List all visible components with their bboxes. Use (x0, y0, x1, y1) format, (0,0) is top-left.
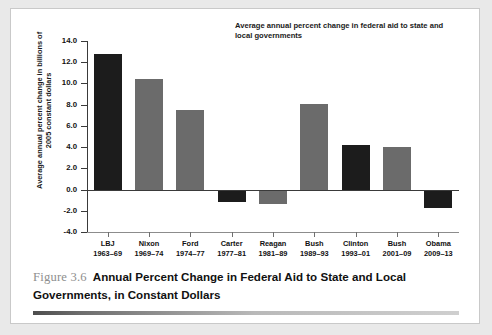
x-tick-mark (190, 232, 191, 237)
x-label-years: 1969–74 (135, 249, 164, 258)
bar-bush-5 (300, 104, 328, 190)
x-label-name: Bush (388, 239, 406, 248)
x-label-name: Clinton (343, 239, 368, 248)
zero-baseline (87, 190, 459, 191)
x-label-years: 2001–09 (383, 249, 412, 258)
figure-number: Figure 3.6 (33, 270, 87, 284)
y-tick-label: 4.0 (37, 142, 77, 151)
x-tick-mark (438, 232, 439, 237)
bar-obama-8 (424, 190, 452, 208)
y-tick-label: 2.0 (37, 163, 77, 172)
bar-lbj-0 (94, 54, 122, 190)
x-label-name: Reagan (260, 239, 287, 248)
x-label-years: 1993–01 (341, 249, 370, 258)
x-label-years: 2009–13 (424, 249, 453, 258)
y-tick-label: -4.0 (37, 227, 77, 236)
bar-reagan-4 (259, 190, 287, 205)
x-label-years: 1974–77 (176, 249, 205, 258)
x-tick-mark (314, 232, 315, 237)
y-tick-label: 10.0 (37, 78, 77, 87)
y-tick-label: 8.0 (37, 100, 77, 109)
x-label-name: LBJ (101, 239, 115, 248)
y-tick-label: 12.0 (37, 57, 77, 66)
y-tick-label: -2.0 (37, 206, 77, 215)
chart-annotation: Average annual percent change in federal… (235, 21, 453, 41)
bar-bush-7 (383, 147, 411, 189)
x-label-name: Carter (221, 239, 243, 248)
caption-rule (33, 311, 459, 315)
bar-carter-3 (218, 190, 246, 203)
figure-caption: Figure 3.6Annual Percent Change in Feder… (33, 267, 463, 303)
x-tick-mark (356, 232, 357, 237)
x-axis-labels: LBJ1963–69Nixon1969–74Ford1974–77Carter1… (87, 239, 459, 263)
x-tick-mark (273, 232, 274, 237)
plot-area: 14.012.010.08.06.04.02.00.0-2.0-4.0 (87, 41, 459, 232)
x-tick-mark (108, 232, 109, 237)
x-label-name: Nixon (139, 239, 160, 248)
x-label-name: Bush (305, 239, 323, 248)
x-label-years: 1977–81 (217, 249, 246, 258)
y-tick-label: 14.0 (37, 36, 77, 45)
bar-ford-2 (176, 110, 204, 190)
x-label-years: 1981–89 (259, 249, 288, 258)
bar-nixon-1 (135, 79, 163, 189)
y-tick-label: 6.0 (37, 121, 77, 130)
figure-card: Average annual percent change in billion… (10, 8, 480, 324)
x-tick-mark (232, 232, 233, 237)
x-tick-mark (149, 232, 150, 237)
x-label-name: Ford (182, 239, 198, 248)
x-axis-label: Obama2009–13 (410, 239, 466, 258)
x-tick-mark (397, 232, 398, 237)
chart-region: Average annual percent change in billion… (11, 9, 481, 259)
y-tick-label: 0.0 (37, 185, 77, 194)
x-label-years: 1963–69 (93, 249, 122, 258)
figure-caption-text: Annual Percent Change in Federal Aid to … (33, 270, 406, 301)
x-label-name: Obama (426, 239, 451, 248)
bar-series (87, 41, 459, 232)
x-label-years: 1989–93 (300, 249, 329, 258)
bar-clinton-6 (342, 145, 370, 190)
